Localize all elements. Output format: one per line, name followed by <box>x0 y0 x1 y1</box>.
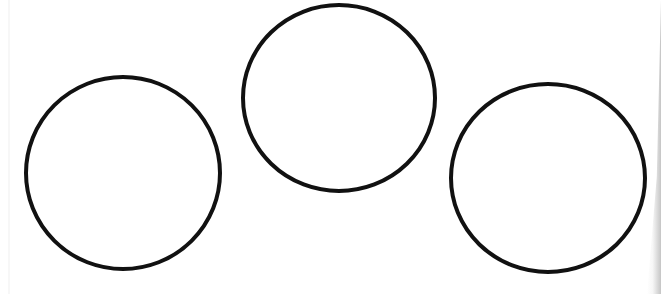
circles-group <box>26 5 645 272</box>
middle-circle <box>243 5 435 191</box>
left-circle <box>26 77 220 269</box>
right-circle <box>451 84 645 272</box>
drawing-canvas <box>0 0 661 294</box>
